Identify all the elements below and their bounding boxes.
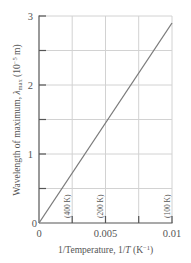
x-axis-title: 1/Temperature, 1/T (K−1) bbox=[58, 244, 153, 257]
y-tick-label: 1 bbox=[28, 149, 33, 160]
x-tick-label: 0.01 bbox=[163, 228, 181, 239]
y-tick-label: 0 bbox=[32, 218, 37, 229]
y-axis-title: Wavelength of maximum, λmax (10−5 m) bbox=[11, 44, 24, 195]
x-tick-label: 0.005 bbox=[94, 228, 118, 239]
annotation-400k: (400 K) bbox=[63, 194, 72, 218]
y-tick-label: 2 bbox=[28, 80, 33, 91]
x-tick-label: 0 bbox=[36, 228, 41, 239]
y-tick-label: 3 bbox=[28, 11, 33, 22]
wien-law-chart: 3 2 1 0 0 0.005 0.01 (400 K) (200 K) (10… bbox=[0, 0, 191, 263]
annotation-100k: (100 K) bbox=[163, 194, 172, 218]
annotation-200k: (200 K) bbox=[96, 194, 105, 218]
